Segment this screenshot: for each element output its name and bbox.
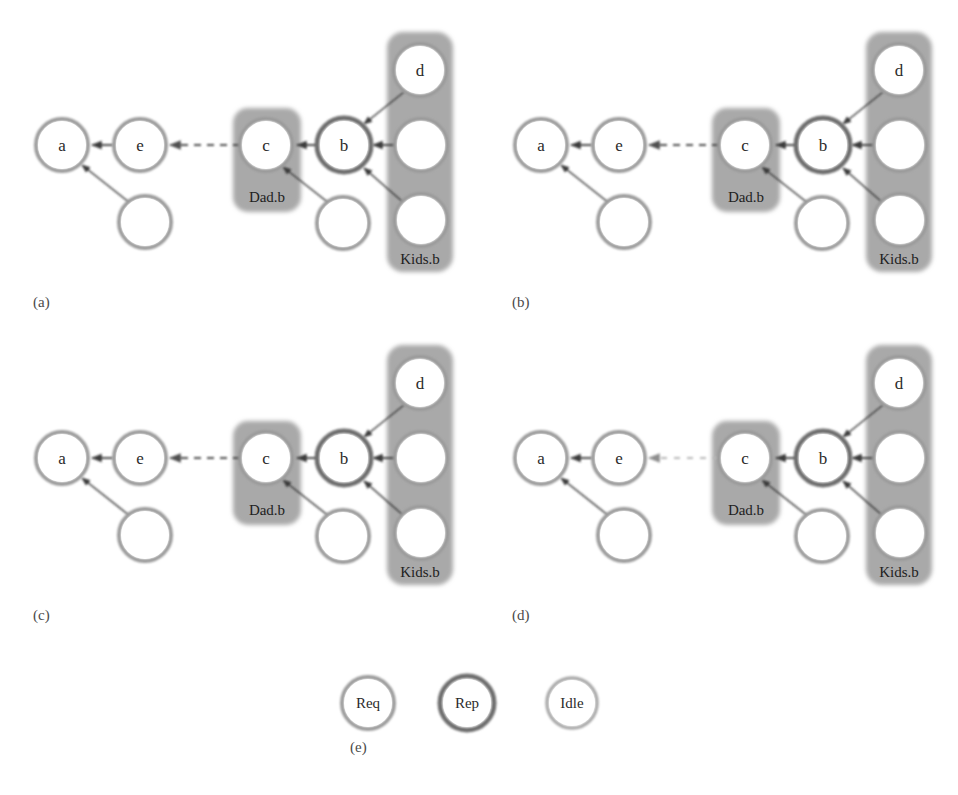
node-d-kidmid[interactable] — [874, 432, 926, 484]
dad-group-label: Dad.b — [728, 502, 764, 518]
node-c-c[interactable]: c — [240, 432, 292, 484]
node-label: a — [58, 136, 66, 155]
node-a-d[interactable]: d — [394, 44, 446, 96]
node-label: b — [340, 449, 349, 468]
node-label: d — [416, 374, 425, 393]
legend-label-req: Req — [356, 695, 381, 711]
node-label: a — [537, 449, 545, 468]
dad-group-label: Dad.b — [249, 189, 285, 205]
node-a-b[interactable]: b — [317, 118, 371, 172]
panel-label-b: (b) — [512, 294, 530, 311]
node-c-cchild[interactable] — [317, 510, 369, 562]
node-d-e[interactable]: e — [593, 432, 645, 484]
node-label: c — [262, 449, 270, 468]
panel-label-c: (c) — [33, 607, 50, 624]
node-d-c[interactable]: c — [719, 432, 771, 484]
node-label: b — [819, 136, 828, 155]
node-label: c — [741, 449, 749, 468]
node-label: d — [416, 61, 425, 80]
dad-group-label: Dad.b — [728, 189, 764, 205]
node-d-kidbot[interactable] — [874, 507, 926, 559]
node-label: e — [615, 136, 623, 155]
dad-group-label: Dad.b — [249, 502, 285, 518]
node-c-kidmid[interactable] — [395, 432, 447, 484]
node-label: e — [136, 449, 144, 468]
node-label: c — [741, 136, 749, 155]
node-d-d[interactable]: d — [873, 357, 925, 409]
node-b-a[interactable]: a — [515, 119, 567, 171]
node-label: d — [895, 374, 904, 393]
node-d-b[interactable]: b — [796, 431, 850, 485]
panel-label-e: (e) — [350, 739, 367, 756]
node-label: c — [262, 136, 270, 155]
node-b-kidbot[interactable] — [874, 194, 926, 246]
node-a-e[interactable]: e — [114, 119, 166, 171]
node-a-a[interactable]: a — [36, 119, 88, 171]
panel-label-d: (d) — [512, 607, 530, 624]
kids-group-label: Kids.b — [879, 564, 919, 580]
node-label: a — [58, 449, 66, 468]
node-c-a[interactable]: a — [36, 432, 88, 484]
node-c-b[interactable]: b — [317, 431, 371, 485]
node-d-achild[interactable] — [598, 509, 650, 561]
node-d-a[interactable]: a — [515, 432, 567, 484]
figure-root: a e c b d — [0, 0, 958, 795]
panel-label-a: (a) — [33, 294, 50, 311]
node-b-achild[interactable] — [598, 196, 650, 248]
kids-group-label: Kids.b — [400, 251, 440, 267]
node-c-d[interactable]: d — [394, 357, 446, 409]
node-c-achild[interactable] — [119, 509, 171, 561]
node-label: e — [136, 136, 144, 155]
node-b-c[interactable]: c — [719, 119, 771, 171]
legend-item-idle[interactable]: Idle — [547, 678, 597, 728]
legend-label-rep: Rep — [455, 695, 479, 711]
node-label: d — [895, 61, 904, 80]
node-a-kidmid[interactable] — [395, 119, 447, 171]
node-a-kidbot[interactable] — [395, 194, 447, 246]
node-a-achild[interactable] — [119, 196, 171, 248]
legend-item-req[interactable]: Req — [342, 677, 394, 729]
node-a-c[interactable]: c — [240, 119, 292, 171]
node-b-cchild[interactable] — [796, 197, 848, 249]
node-b-d[interactable]: d — [873, 44, 925, 96]
node-b-e[interactable]: e — [593, 119, 645, 171]
node-b-kidmid[interactable] — [874, 119, 926, 171]
node-b-b[interactable]: b — [796, 118, 850, 172]
kids-group-label: Kids.b — [879, 251, 919, 267]
node-label: a — [537, 136, 545, 155]
legend-label-idle: Idle — [560, 695, 584, 711]
kids-group-label: Kids.b — [400, 564, 440, 580]
legend-item-rep[interactable]: Rep — [440, 676, 494, 730]
node-a-cchild[interactable] — [317, 197, 369, 249]
node-c-kidbot[interactable] — [395, 507, 447, 559]
node-label: b — [340, 136, 349, 155]
node-c-e[interactable]: e — [114, 432, 166, 484]
node-label: b — [819, 449, 828, 468]
node-d-cchild[interactable] — [796, 510, 848, 562]
node-label: e — [615, 449, 623, 468]
